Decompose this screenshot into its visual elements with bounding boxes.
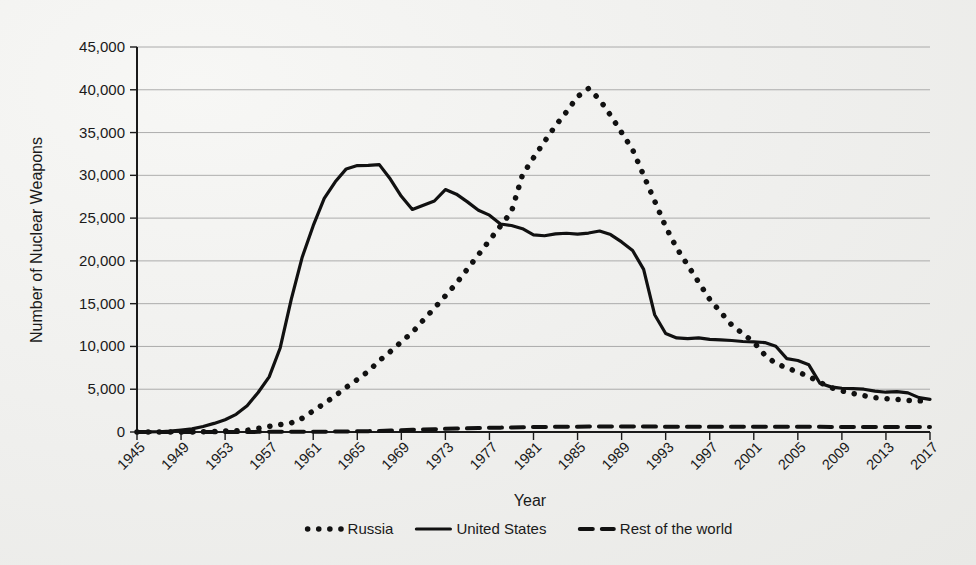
y-tick-label: 35,000: [79, 124, 125, 141]
x-tick-labels: 1945194919531957196119651969197319771981…: [114, 439, 941, 473]
y-tick-label: 5,000: [87, 380, 125, 397]
legend: RussiaUnited StatesRest of the world: [308, 520, 733, 537]
x-tick-label: 1957: [246, 439, 280, 473]
data-series-group: [137, 88, 930, 432]
y-tick-label: 0: [117, 423, 125, 440]
y-tick-label: 25,000: [79, 209, 125, 226]
x-tick-label: 2013: [863, 439, 897, 473]
legend-label: United States: [456, 520, 546, 537]
x-tick-label: 1997: [687, 439, 721, 473]
y-tick-label: 40,000: [79, 81, 125, 98]
series-line-russia: [137, 88, 930, 432]
legend-label: Rest of the world: [620, 520, 733, 537]
x-axis-title: Year: [514, 492, 547, 509]
legend-item[interactable]: United States: [416, 520, 546, 537]
y-tick-label: 10,000: [79, 337, 125, 354]
y-tick-label: 20,000: [79, 252, 125, 269]
x-tick-label: 2017: [907, 439, 941, 473]
series-line-united-states: [137, 165, 930, 432]
x-tick-label: 1961: [290, 439, 324, 473]
x-tick-label: 1977: [466, 439, 500, 473]
gridlines: [137, 47, 930, 432]
y-tick-label: 45,000: [79, 38, 125, 55]
x-tick-label: 1945: [114, 439, 148, 473]
y-axis: [130, 47, 137, 432]
y-axis-title: Number of Nuclear Weapons: [28, 137, 45, 343]
y-tick-label: 30,000: [79, 166, 125, 183]
chart-page: 05,00010,00015,00020,00025,00030,00035,0…: [0, 0, 976, 565]
x-tick-label: 2005: [775, 439, 809, 473]
legend-item[interactable]: Russia: [308, 520, 395, 537]
x-tick-label: 2001: [731, 439, 765, 473]
x-tick-label: 1969: [378, 439, 412, 473]
x-tick-label: 1981: [510, 439, 544, 473]
x-tick-label: 1985: [555, 439, 589, 473]
y-tick-label: 15,000: [79, 295, 125, 312]
x-tick-label: 2009: [819, 439, 853, 473]
legend-item[interactable]: Rest of the world: [580, 520, 733, 537]
x-tick-label: 1965: [334, 439, 368, 473]
nuclear-weapons-line-chart: 05,00010,00015,00020,00025,00030,00035,0…: [0, 0, 976, 565]
x-tick-label: 1949: [158, 439, 192, 473]
x-tick-label: 1989: [599, 439, 633, 473]
x-tick-label: 1953: [202, 439, 236, 473]
x-tick-label: 1973: [422, 439, 456, 473]
legend-label: Russia: [348, 520, 395, 537]
y-tick-labels: 05,00010,00015,00020,00025,00030,00035,0…: [79, 38, 125, 440]
x-tick-label: 1993: [643, 439, 677, 473]
